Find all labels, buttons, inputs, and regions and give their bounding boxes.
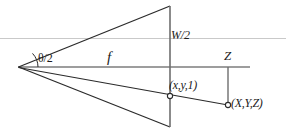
half-field-of-view-label: θ/2 (38, 52, 52, 64)
image-point-label: (x,y,1) (169, 79, 197, 91)
projection-diagram-figure: θ/2 f W/2 Z (x,y,1) (X,Y,Z) (0, 0, 286, 132)
half-image-width-label: W/2 (171, 29, 190, 41)
focal-length-label: f (107, 50, 111, 65)
diagram-canvas (0, 0, 286, 132)
frustum-bottom-edge (19, 67, 171, 127)
image-point-marker (167, 93, 172, 98)
world-point-marker (225, 102, 230, 107)
depth-label: Z (224, 49, 231, 62)
world-point-label: (X,Y,Z) (231, 97, 262, 109)
